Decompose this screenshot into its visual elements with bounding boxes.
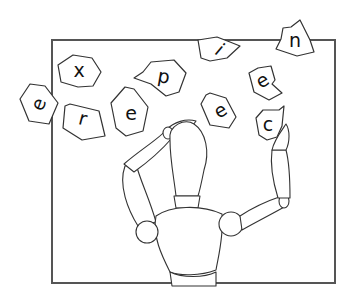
- tile-e-2: e: [111, 87, 148, 136]
- tile-e-4: e: [201, 93, 236, 128]
- left-upper-arm: [123, 164, 156, 226]
- tile-n: n: [276, 20, 314, 56]
- mannequin-juggling-illustration: e x r e p i n e e c: [0, 0, 352, 294]
- tile-letter: x: [73, 59, 84, 81]
- tile-letter: c: [263, 113, 273, 135]
- right-shoulder-joint: [219, 212, 243, 236]
- tile-p: p: [134, 60, 186, 96]
- right-forearm: [271, 150, 290, 198]
- torso: [155, 207, 222, 274]
- tile-letter: n: [289, 29, 301, 51]
- mannequin-figure: [123, 120, 290, 286]
- tile-r: r: [63, 104, 105, 140]
- left-shoulder-joint: [136, 221, 158, 243]
- tile-e-3: e: [249, 66, 282, 100]
- tile-letter: e: [125, 102, 137, 124]
- head: [170, 122, 207, 196]
- tile-x: x: [58, 55, 101, 87]
- neck: [174, 196, 200, 208]
